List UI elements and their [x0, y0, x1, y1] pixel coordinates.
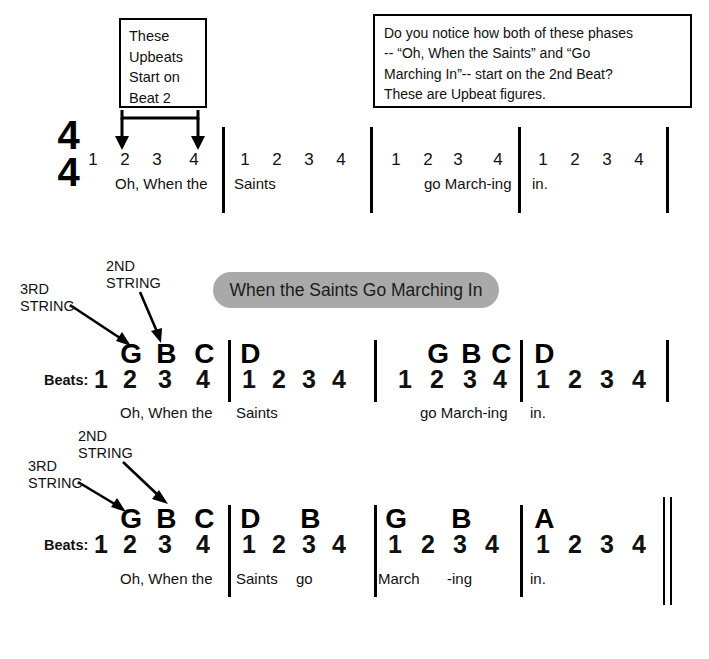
second-string-label-system2: 2ND STRING	[106, 258, 161, 292]
lyric: in.	[530, 570, 546, 587]
beat-number: 3	[445, 150, 471, 170]
lyric: go March-ing	[420, 404, 508, 421]
beat-number: 3	[447, 530, 473, 559]
beat-number: 3	[594, 365, 620, 394]
beat-number: 1	[382, 530, 408, 559]
beat-number: 4	[487, 365, 513, 394]
lyric: go	[296, 570, 313, 587]
arrow-head-beat2-icon	[115, 136, 129, 150]
callout-notice-line-2: -- “Oh, When the Saints” and “Go	[384, 43, 681, 63]
barline-system1-4	[666, 127, 669, 213]
upbeat-bracket-icon	[122, 110, 198, 138]
lyric: Saints	[236, 570, 278, 587]
second-string-arrow-system2-icon	[140, 292, 158, 334]
third-string-label-line1: 3RD	[28, 458, 83, 475]
beat-number: 1	[530, 150, 556, 170]
lyric: Oh, When the	[115, 175, 208, 192]
beat-number: 1	[88, 365, 114, 394]
callout-notice-line-1: Do you notice how both of these phases	[384, 23, 681, 43]
time-signature-numerator: 4	[45, 117, 91, 154]
beat-number: 3	[457, 365, 483, 394]
beat-number: 1	[236, 365, 262, 394]
beat-number: 2	[562, 365, 588, 394]
beat-number: 2	[117, 530, 143, 559]
callout-upbeats-line-4: Beat 2	[129, 88, 197, 109]
third-string-label-line1: 3RD	[20, 281, 75, 298]
lyric: in.	[530, 404, 546, 421]
third-string-arrow-system2-icon	[70, 305, 123, 340]
lyric: Saints	[234, 175, 276, 192]
beat-number: 2	[112, 150, 138, 170]
beat-number: 3	[296, 365, 322, 394]
lyric: in.	[532, 175, 548, 192]
beat-number: 2	[424, 365, 450, 394]
beat-number: 4	[626, 530, 652, 559]
lyric: -ing	[447, 570, 472, 587]
beat-number: 4	[190, 365, 216, 394]
barline-system3-1	[228, 505, 231, 597]
barline-system3-2	[374, 505, 377, 597]
barline-system3-3	[520, 505, 523, 597]
beat-number: 3	[152, 365, 178, 394]
beat-number: 1	[236, 530, 262, 559]
beat-number: 4	[190, 530, 216, 559]
second-string-label-line1: 2ND	[78, 428, 133, 445]
beat-number: 1	[392, 365, 418, 394]
second-string-label-line1: 2ND	[106, 258, 161, 275]
beat-number: 2	[415, 530, 441, 559]
beat-number: 3	[594, 530, 620, 559]
callout-upbeats-line-3: Start on	[129, 67, 197, 88]
song-title-text: When the Saints Go Marching In	[230, 280, 483, 301]
third-string-arrow-system3-icon	[78, 482, 118, 506]
barline-system2-4	[666, 340, 669, 402]
beats-label-system2: Beats:	[44, 372, 88, 388]
beat-number: 4	[326, 365, 352, 394]
beats-label-system3: Beats:	[44, 537, 88, 553]
second-string-label-line2: STRING	[78, 445, 133, 462]
beat-number: 4	[326, 530, 352, 559]
barline-system2-3	[520, 340, 523, 402]
lyric: Oh, When the	[120, 404, 213, 421]
beat-number: 4	[626, 365, 652, 394]
barline-system2-1	[228, 340, 231, 402]
barline-system1-3	[518, 127, 521, 213]
beat-number: 2	[117, 365, 143, 394]
beat-number: 4	[328, 150, 354, 170]
arrow-head-beat4-icon	[191, 136, 205, 150]
beat-number: 4	[626, 150, 652, 170]
barline-system2-2	[374, 340, 377, 402]
beat-number: 3	[144, 150, 170, 170]
callout-upbeat-explanation: Do you notice how both of these phases -…	[373, 14, 692, 108]
barline-system1-1	[222, 127, 225, 213]
second-string-arrow-system3-icon	[123, 462, 160, 497]
beat-number: 2	[266, 530, 292, 559]
beat-number: 1	[530, 530, 556, 559]
beat-number: 4	[485, 150, 511, 170]
lyric: Oh, When the	[120, 570, 213, 587]
second-string-label-system3: 2ND STRING	[78, 428, 133, 462]
final-barline-outer	[663, 497, 665, 605]
lyric: Saints	[236, 404, 278, 421]
third-string-label-line2: STRING	[28, 475, 83, 492]
beat-number: 1	[88, 530, 114, 559]
second-string-label-line2: STRING	[106, 275, 161, 292]
callout-notice-line-3: Marching In”-- start on the 2nd Beat?	[384, 64, 681, 84]
beat-number: 2	[562, 530, 588, 559]
second-string-arrowhead-system3-icon	[152, 490, 168, 504]
third-string-label-system2: 3RD STRING	[20, 281, 75, 315]
callout-upbeats: These Upbeats Start on Beat 2	[119, 18, 207, 108]
beat-number: 3	[296, 150, 322, 170]
callout-upbeats-line-2: Upbeats	[129, 47, 197, 68]
barline-system1-2	[370, 127, 373, 213]
final-barline-inner	[670, 497, 672, 605]
beat-number: 2	[415, 150, 441, 170]
lyric: March	[378, 570, 420, 587]
beat-number: 1	[232, 150, 258, 170]
beat-number: 1	[530, 365, 556, 394]
beat-number: 2	[264, 150, 290, 170]
third-string-label-system3: 3RD STRING	[28, 458, 83, 492]
beat-number: 4	[479, 530, 505, 559]
beat-number: 1	[383, 150, 409, 170]
beat-number: 3	[594, 150, 620, 170]
third-string-label-line2: STRING	[20, 298, 75, 315]
